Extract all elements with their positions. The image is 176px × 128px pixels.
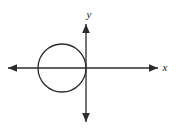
- x-axis-label: x: [162, 61, 168, 73]
- coordinate-plane-diagram: x y: [0, 0, 176, 128]
- y-axis-label: y: [86, 8, 92, 20]
- figure-canvas: x y: [0, 0, 176, 128]
